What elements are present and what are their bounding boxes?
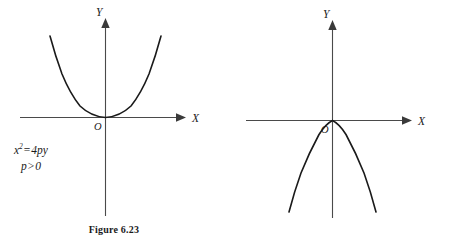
x-axis-arrow-icon <box>176 113 186 121</box>
equation-annotation-6-23: x2=4py p>0 <box>14 143 48 175</box>
condition-variable: p <box>21 160 27 172</box>
equation-main-line: x2=4py <box>14 143 48 159</box>
figure-6-24-plot: X Y O <box>228 0 455 245</box>
condition-operator: > <box>27 160 36 172</box>
equation-right-side: 4py <box>31 144 48 156</box>
figure-caption-6-23: Figure 6.23 <box>0 224 228 235</box>
figure-6-23-panel: X Y O x2=4py p>0 Figure 6.23 <box>0 0 228 245</box>
y-axis-label: Y <box>96 6 104 18</box>
figure-6-23-plot: X Y O <box>0 0 228 245</box>
x-axis-label: X <box>417 115 426 127</box>
y-axis-label: Y <box>323 8 331 20</box>
x-axis-label: X <box>191 112 200 124</box>
figure-6-24-panel: X Y O x2=4py p<0 Figure 6.24 <box>228 0 455 245</box>
equation-condition-line: p>0 <box>14 159 48 175</box>
y-axis-arrow-icon <box>101 18 109 28</box>
origin-label: O <box>321 124 329 135</box>
y-axis-arrow-icon <box>328 20 336 30</box>
x-axis-arrow-icon <box>402 116 412 124</box>
origin-label: O <box>94 121 102 132</box>
condition-value: 0 <box>35 160 41 172</box>
